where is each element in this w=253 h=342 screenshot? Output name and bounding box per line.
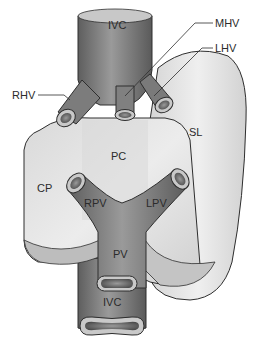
label-rhv: RHV [12,89,36,101]
label-lpv: LPV [146,197,167,209]
label-ivc-top: IVC [108,19,126,31]
label-cp: CP [37,182,52,194]
liver-vessel-diagram: IVC MHV LHV RHV SL PC CP RPV LPV PV IVC [0,0,253,342]
rhv-leader-line [38,95,70,100]
ivc-bottom-opening [80,317,144,335]
label-lhv: LHV [215,42,237,54]
label-ivc-bottom: IVC [103,296,121,308]
label-pc: PC [111,150,126,162]
label-rpv: RPV [84,197,107,209]
label-pv: PV [113,248,128,260]
label-sl: SL [189,126,202,138]
label-mhv: MHV [215,17,240,29]
mhv-vessel [115,86,135,121]
